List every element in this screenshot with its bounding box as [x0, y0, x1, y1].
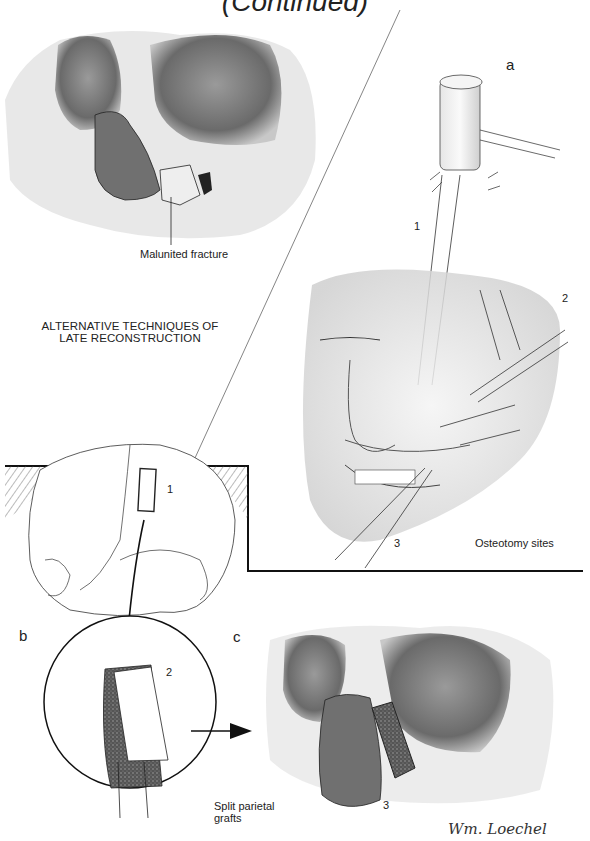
graft-layer-2-label: 2 — [166, 666, 172, 678]
graft-placement-3-label: 3 — [383, 799, 389, 811]
osteotomy-site-1-label: 1 — [414, 220, 420, 232]
face-drawing — [303, 269, 568, 568]
split-parietal-grafts-caption: Split parietal grafts — [214, 800, 275, 824]
reconstructed-skull-drawing — [266, 626, 553, 807]
mallet-icon — [430, 75, 560, 192]
illustration-canvas — [0, 0, 590, 841]
section-heading: ALTERNATIVE TECHNIQUES OF LATE RECONSTRU… — [30, 320, 230, 344]
panel-letter-c: c — [233, 628, 241, 645]
section-heading-line-1: ALTERNATIVE TECHNIQUES OF — [30, 320, 230, 332]
panel-letter-b: b — [19, 627, 27, 644]
section-heading-line-2: LATE RECONSTRUCTION — [30, 332, 230, 344]
artist-signature: Wm. Loechel — [448, 820, 547, 838]
panel-letter-a: a — [506, 56, 514, 73]
graft-detail-circle — [44, 616, 216, 818]
osteotomy-site-3-label: 3 — [394, 537, 400, 549]
osteotomy-sites-caption: Osteotomy sites — [475, 537, 554, 549]
skull-graft-site-1-label: 1 — [167, 483, 173, 495]
osteotomy-site-2-label: 2 — [562, 292, 568, 304]
caption-line-1: Split parietal — [214, 800, 275, 812]
malunited-fracture-label: Malunited fracture — [140, 248, 228, 260]
caption-line-2: grafts — [214, 812, 275, 824]
malunited-fracture-drawing — [5, 31, 316, 245]
page-title: (Continued) — [0, 0, 590, 18]
